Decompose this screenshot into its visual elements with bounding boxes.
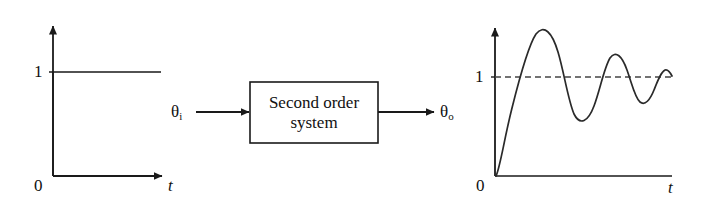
- system-block-line-1: Second order: [269, 93, 359, 113]
- block-diagram-input-signal-label: θi: [171, 103, 182, 120]
- input-plot-origin-label: 0: [34, 177, 43, 194]
- output-plot-y-tick-label: 1: [475, 68, 484, 85]
- block-diagram-output-signal-label: θo: [440, 103, 454, 120]
- input-plot-axes: [53, 26, 162, 176]
- theta-o-subscript: o: [448, 110, 454, 122]
- output-plot-x-axis-label: t: [668, 179, 673, 196]
- system-block-line-2: system: [290, 113, 337, 133]
- system-block-text: Second order system: [250, 82, 378, 143]
- figure-container: 1 0 t θi Second order system θo 1 0 t: [0, 0, 716, 208]
- output-plot-origin-label: 0: [476, 177, 485, 194]
- theta-o-symbol: θ: [440, 102, 448, 121]
- theta-i-symbol: θ: [171, 102, 179, 121]
- input-plot-x-axis-label: t: [168, 177, 173, 194]
- input-plot-step-curve: [53, 72, 161, 176]
- input-plot-y-tick-label: 1: [34, 63, 43, 80]
- output-plot-response-curve: [496, 30, 672, 176]
- theta-i-subscript: i: [179, 110, 182, 122]
